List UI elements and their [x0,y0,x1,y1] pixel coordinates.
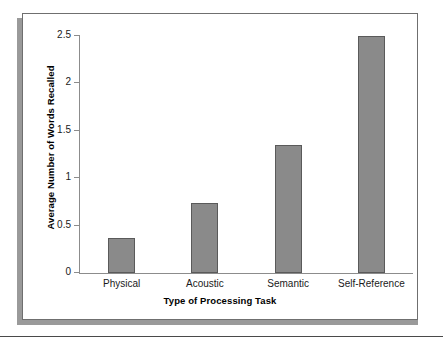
bottom-horizontal-rule [0,336,443,337]
y-tick-mark [74,82,79,83]
bar-slot [191,35,218,273]
y-tick-mark [74,130,79,131]
y-tick-mark [74,272,79,273]
bar-self-reference[interactable] [358,36,385,273]
figure-frame: 00.511.522.5 Average Number of Words Rec… [22,13,418,320]
bar-chart: 00.511.522.5 Average Number of Words Rec… [23,14,417,319]
y-tick-mark [74,35,79,36]
plot-region [80,35,413,273]
y-axis-title: Average Number of Words Recalled [45,48,56,248]
bar-slot [108,35,135,273]
y-tick-mark [74,225,79,226]
x-axis-title: Type of Processing Task [23,295,417,306]
x-axis-line [79,273,413,274]
bar-slot [275,35,302,273]
y-tick-label: 2.5 [31,30,71,40]
x-tick-label-self-reference: Self-Reference [338,278,405,289]
x-tick-label-physical: Physical [103,278,140,289]
figure-shadow-bottom [17,320,418,325]
bar-slot [358,35,385,273]
bar-acoustic[interactable] [191,203,218,273]
bar-physical[interactable] [108,238,135,273]
x-tick-label-acoustic: Acoustic [186,278,224,289]
bar-semantic[interactable] [275,145,302,273]
y-tick-label: 0 [31,267,71,277]
y-tick-mark [74,177,79,178]
x-tick-label-semantic: Semantic [267,278,309,289]
